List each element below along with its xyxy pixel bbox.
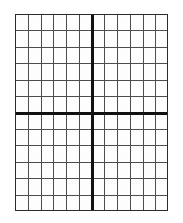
coordinate-grid — [15, 14, 168, 211]
grid-svg — [15, 14, 168, 211]
grid-lines-layer — [15, 14, 168, 211]
screenshot-root — [0, 0, 183, 223]
